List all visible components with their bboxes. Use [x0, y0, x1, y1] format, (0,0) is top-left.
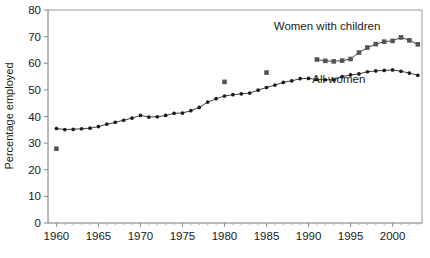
series-marker-dot	[298, 77, 302, 81]
x-tick-label: 2000	[380, 230, 406, 242]
series-marker-dot	[97, 125, 101, 129]
x-tick-label: 1990	[296, 230, 322, 242]
series-marker-square	[390, 39, 395, 44]
series-3	[54, 70, 269, 151]
series-marker-dot	[105, 122, 109, 126]
series-marker-square	[357, 50, 362, 55]
series-marker-square	[331, 59, 336, 64]
series-marker-dot	[197, 106, 201, 110]
series-marker-dot	[172, 111, 176, 115]
series-marker-dot	[399, 69, 403, 73]
chart-plot: 01020304050607080 1960196519701975198019…	[0, 0, 430, 258]
series-marker-dot	[214, 97, 218, 101]
chart-container: 01020304050607080 1960196519701975198019…	[0, 0, 430, 258]
series-marker-dot	[55, 127, 59, 131]
series-marker-dot	[181, 111, 185, 115]
series-marker-dot	[189, 109, 193, 113]
x-tick-label: 1985	[254, 230, 280, 242]
y-tick-label: 50	[28, 84, 41, 96]
x-tick-label: 1960	[44, 230, 70, 242]
series-marker-dot	[206, 100, 210, 104]
series-marker-square	[416, 42, 421, 47]
series-marker-square	[348, 57, 353, 62]
series-marker-dot	[122, 118, 126, 122]
x-tick-label: 1995	[338, 230, 364, 242]
series-marker-dot	[382, 69, 386, 73]
series-marker-dot	[139, 114, 143, 118]
series-marker-dot	[231, 93, 235, 97]
series-marker-dot	[164, 114, 168, 118]
y-tick-label: 70	[28, 31, 41, 43]
x-tick-label: 1965	[86, 230, 112, 242]
series-marker-dot	[80, 127, 84, 131]
series-2	[315, 35, 420, 64]
y-tick-label: 0	[35, 217, 41, 229]
series-marker-dot	[147, 115, 151, 119]
series-marker-dot	[71, 127, 75, 131]
y-axis: 01020304050607080	[28, 4, 48, 229]
plot-frame	[48, 10, 422, 223]
x-tick-label: 1970	[128, 230, 154, 242]
series-marker-dot	[307, 77, 311, 81]
x-tick-label: 1980	[212, 230, 238, 242]
x-axis: 196019651970197519801985199019952000	[44, 223, 418, 242]
series-marker-dot	[256, 88, 260, 92]
series-marker-dot	[239, 92, 243, 96]
series-marker-square	[407, 38, 412, 43]
series-marker-dot	[391, 68, 395, 72]
y-tick-label: 40	[28, 111, 41, 123]
series-marker-dot	[248, 91, 252, 95]
series-marker-dot	[273, 83, 277, 87]
annotations-group: Women with childrenAll women	[274, 20, 381, 85]
series-marker-square	[323, 59, 328, 64]
series-marker-dot	[155, 115, 159, 119]
y-tick-label: 20	[28, 164, 41, 176]
series-marker-square	[54, 146, 59, 151]
series-marker-square	[365, 45, 370, 50]
series-marker-dot	[265, 86, 269, 90]
series-marker-dot	[223, 94, 227, 98]
annotation-women-with-children: Women with children	[274, 20, 381, 32]
series-marker-dot	[290, 79, 294, 83]
series-marker-dot	[416, 73, 420, 77]
y-tick-label: 30	[28, 137, 41, 149]
y-tick-label: 80	[28, 4, 41, 16]
series-marker-square	[222, 80, 227, 85]
annotation-all-women: All women	[312, 73, 365, 85]
series-marker-dot	[88, 126, 92, 130]
series-marker-dot	[374, 69, 378, 73]
y-tick-label: 60	[28, 57, 41, 69]
y-axis-title: Percentage employed	[3, 62, 15, 169]
series-marker-square	[382, 39, 387, 44]
series-marker-dot	[130, 116, 134, 120]
x-tick-label: 1975	[170, 230, 196, 242]
series-marker-square	[399, 35, 404, 40]
series-marker-dot	[408, 71, 412, 75]
data-series-group	[54, 35, 420, 151]
series-marker-dot	[113, 121, 117, 125]
series-marker-dot	[366, 70, 370, 74]
series-marker-square	[264, 70, 269, 75]
series-marker-dot	[281, 81, 285, 85]
series-marker-square	[373, 42, 378, 47]
series-marker-square	[315, 57, 320, 62]
series-marker-dot	[63, 128, 67, 132]
series-marker-square	[340, 58, 345, 63]
y-tick-label: 10	[28, 190, 41, 202]
